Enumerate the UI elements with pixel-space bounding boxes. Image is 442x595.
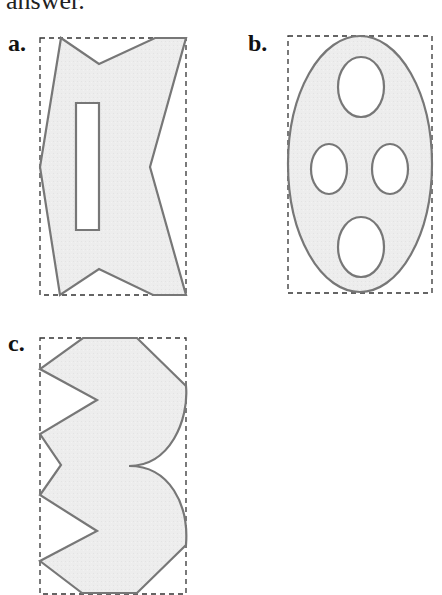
shape-b: [288, 36, 432, 292]
figures-canvas: [0, 0, 442, 595]
figure-a: [40, 38, 186, 295]
shape-c: [40, 338, 186, 593]
shape-a: [40, 38, 186, 295]
figure-b: [288, 36, 432, 293]
figure-c: [40, 338, 186, 594]
